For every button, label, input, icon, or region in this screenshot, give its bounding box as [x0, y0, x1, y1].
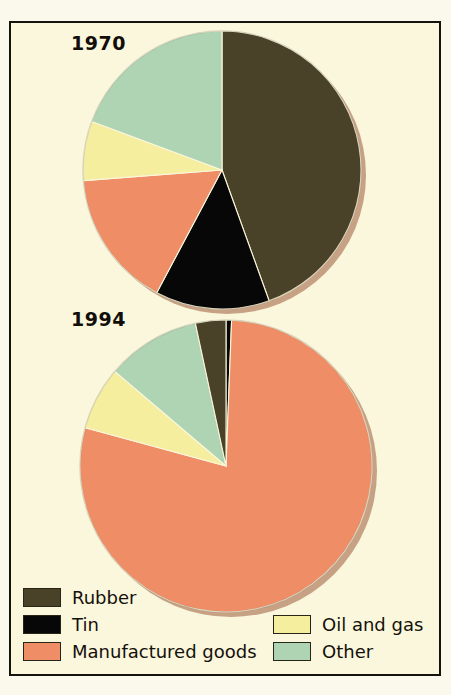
legend-swatch-rubber [23, 588, 61, 607]
pie-chart-1994-svg [71, 306, 381, 616]
legend-swatch-other [273, 642, 311, 661]
legend-label-oil-and-gas: Oil and gas [322, 616, 423, 634]
legend-swatch-tin [23, 615, 61, 634]
legend: Rubber Tin Manufactured goods x [23, 584, 427, 666]
legend-item-rubber: Rubber [23, 584, 273, 611]
legend-label-tin: Tin [72, 616, 99, 634]
legend-item-manufactured-goods: Manufactured goods [23, 638, 273, 665]
legend-label-other: Other [322, 643, 373, 661]
legend-item-tin: Tin [23, 611, 273, 638]
legend-swatch-manufactured-goods [23, 642, 61, 661]
legend-column-left: Rubber Tin Manufactured goods [23, 584, 273, 665]
plot-area: 1970 1994 Rubber Tin Manufa [9, 21, 441, 676]
pie-chart-1970 [75, 25, 369, 319]
legend-column-right: x Oil and gas Other [273, 584, 427, 665]
figure-page: 1970 1994 Rubber Tin Manufa [0, 0, 451, 695]
legend-swatch-oil-and-gas [273, 615, 311, 634]
legend-item-other: Other [273, 638, 427, 665]
legend-label-manufactured-goods: Manufactured goods [72, 643, 257, 661]
legend-label-rubber: Rubber [72, 589, 136, 607]
pie-chart-1994 [71, 306, 381, 616]
legend-item-oil-and-gas: Oil and gas [273, 611, 427, 638]
legend-spacer: x [273, 584, 427, 611]
pie-chart-1970-svg [75, 25, 369, 319]
